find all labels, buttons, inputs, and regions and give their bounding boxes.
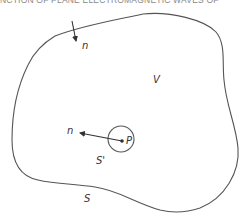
inner-normal-arrow [80,133,122,141]
surface-volume-diagram: n V P n S' S [0,0,250,219]
small-surface-label: S' [96,155,105,166]
volume-label: V [153,74,161,85]
inner-normal-label: n [67,125,73,136]
point-p-label: P [126,135,133,146]
surface-label: S [84,193,91,204]
closed-surface-s [12,13,238,212]
outer-normal-arrow [72,21,76,41]
outer-normal-label: n [82,40,88,51]
